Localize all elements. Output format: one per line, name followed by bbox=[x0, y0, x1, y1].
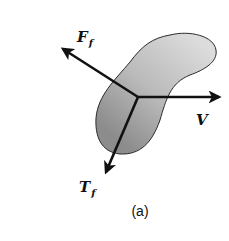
friction-torque-label: Tf bbox=[79, 178, 97, 198]
friction-force-label: Ff bbox=[76, 28, 95, 48]
figure-caption: (a) bbox=[131, 203, 148, 219]
velocity-label: V bbox=[196, 111, 209, 129]
rigid-body-blob bbox=[96, 33, 216, 154]
free-body-diagram: Ff V Tf (a) bbox=[0, 0, 229, 241]
